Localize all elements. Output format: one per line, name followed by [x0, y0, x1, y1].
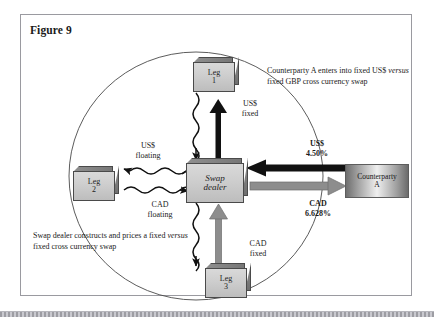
node-leg-1[interactable]: Leg 1	[193, 57, 239, 90]
arrow-cad-fixed	[210, 204, 228, 264]
label-cad-fixed: CAD fixed	[238, 239, 278, 259]
label-usd-rate: US$ 4.50%	[293, 139, 341, 159]
arrow-cad-6628	[250, 177, 346, 195]
annotation-dealer-note-part2: fixed cross currency swap	[33, 242, 116, 251]
node-counterparty-a[interactable]: Counterparty A	[345, 164, 409, 198]
wave-cad-floating	[193, 203, 199, 271]
annotation-counterparty-note: Counterparty A enters into fixed US$ ver…	[267, 66, 419, 87]
label-cad-fixed-line1: CAD	[238, 239, 278, 249]
counterparty-a-label-line2: A	[374, 181, 379, 189]
leg-1-label-line2: 1	[212, 77, 216, 85]
label-cad-floating-line2: floating	[138, 210, 182, 220]
label-cad-floating: CAD floating	[138, 200, 182, 220]
leg-3-front-face: Leg 3	[205, 268, 247, 298]
annotation-counterparty-note-italic: versus	[388, 66, 408, 75]
wave-cad-floating-to-dealer	[124, 187, 194, 193]
leg-1-front-face: Leg 1	[193, 62, 235, 92]
annotation-counterparty-note-part2: fixed GBP cross currency swap	[267, 77, 368, 86]
arrow-usd-fixed	[210, 99, 228, 162]
leg-2-label-line2: 2	[92, 186, 96, 194]
page-bottom-rule	[0, 311, 434, 317]
leg-2-front-face: Leg 2	[73, 171, 115, 201]
label-usd-rate-line2: 4.50%	[293, 149, 341, 159]
wave-usd-floating	[193, 93, 199, 162]
leg-3-label-line2: 3	[224, 283, 228, 291]
annotation-dealer-note-part1: Swap dealer constructs and prices a fixe…	[33, 231, 167, 240]
label-usd-fixed: US$ fixed	[230, 99, 270, 119]
node-leg-2[interactable]: Leg 2	[73, 166, 119, 199]
arrow-usd-450	[246, 160, 345, 177]
label-usd-fixed-line2: fixed	[230, 109, 270, 119]
annotation-dealer-note: Swap dealer constructs and prices a fixe…	[33, 231, 193, 252]
label-usd-floating-line2: floating	[126, 151, 170, 161]
swap-dealer-label-line2: dealer	[204, 183, 227, 192]
label-usd-rate-line1: US$	[293, 139, 341, 149]
label-cad-rate-line1: CAD	[292, 199, 344, 209]
label-usd-fixed-line1: US$	[230, 99, 270, 109]
figure-screenshot: Figure 9	[0, 0, 434, 324]
label-cad-floating-line1: CAD	[138, 200, 182, 210]
label-cad-rate-line2: 6.628%	[292, 209, 344, 219]
node-swap-dealer[interactable]: Swap dealer	[186, 158, 248, 201]
node-leg-3[interactable]: Leg 3	[205, 263, 251, 296]
label-usd-floating-line1: US$	[126, 141, 170, 151]
annotation-counterparty-note-part1: Counterparty A enters into fixed US$	[267, 66, 388, 75]
swap-dealer-front-face: Swap dealer	[186, 163, 244, 203]
annotation-dealer-note-italic: versus	[167, 231, 187, 240]
label-cad-fixed-line2: fixed	[238, 249, 278, 259]
label-cad-rate: CAD 6.628%	[292, 199, 344, 219]
label-usd-floating: US$ floating	[126, 141, 170, 161]
